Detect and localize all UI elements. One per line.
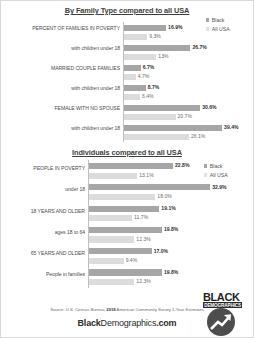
- bar-value-black: 19.1%: [161, 205, 175, 212]
- chart-group: People in families19.8%12.3%: [1, 266, 254, 287]
- bar-value-all-usa: 13.1%: [139, 172, 153, 179]
- bar-value-all-usa: 6.4%: [142, 93, 154, 100]
- bar-row: 26.7%: [124, 44, 254, 52]
- bar-row: 12.3%: [89, 278, 254, 286]
- bar-value-black: 6.7%: [143, 64, 155, 71]
- bar-all-usa: [89, 194, 155, 200]
- bar-black: [124, 65, 141, 71]
- bar-value-all-usa: 11.7%: [134, 214, 148, 221]
- bar-all-usa: [89, 173, 137, 179]
- bar-all-usa: [89, 215, 132, 221]
- bar-value-black: 30.6%: [202, 104, 216, 111]
- brand-part-black: Black: [78, 318, 101, 328]
- legend-label-all-usa: All USA: [210, 172, 228, 178]
- bar-value-black: 16.9%: [168, 24, 182, 31]
- bar-row: 13.1%: [89, 172, 254, 180]
- bar-value-black: 26.7%: [192, 44, 206, 51]
- bar-all-usa: [124, 74, 136, 80]
- bar-row: 20.7%: [124, 113, 254, 121]
- legend-swatch-black-icon: [204, 164, 207, 167]
- bar-all-usa: [124, 134, 189, 140]
- chart-2-legend: Black All USA: [204, 163, 228, 181]
- category-label: PERCENT OF FAMILIES IN POVERTY: [1, 26, 120, 32]
- chart-group: under 1832.9%18.0%: [1, 181, 254, 202]
- bar-value-all-usa: 4.7%: [138, 73, 150, 80]
- bar-row: 19.1%: [89, 205, 254, 213]
- category-label: MARRIED COUPLE FAMILIES: [1, 66, 120, 72]
- bar-row: 9.3%: [124, 33, 254, 41]
- bar-all-usa: [124, 54, 156, 60]
- category-label: PEOPLE IN POVERTY: [1, 166, 85, 172]
- bar-all-usa: [124, 94, 140, 100]
- bar-black: [124, 45, 190, 51]
- bar-value-black: 19.8%: [164, 269, 178, 276]
- bar-value-all-usa: 20.7%: [178, 113, 192, 120]
- bar-value-all-usa: 13%: [158, 53, 168, 60]
- legend-label-black: Black: [210, 163, 223, 169]
- logo-arrow-icon: [207, 308, 235, 336]
- bar-black: [124, 105, 200, 111]
- bar-value-all-usa: 26.1%: [191, 133, 205, 140]
- infographic-sheet: By Family Type compared to all USA PERCE…: [0, 0, 254, 338]
- chart-group: MARRIED COUPLE FAMILIES6.7%4.7%: [1, 62, 254, 82]
- bar-all-usa: [89, 258, 124, 264]
- chart-group: with children under 188.7%6.4%: [1, 82, 254, 102]
- chart-1-groups: PERCENT OF FAMILIES IN POVERTY16.9%9.3%w…: [1, 22, 254, 142]
- bar-black: [89, 269, 162, 275]
- legend-item-all-usa: All USA: [204, 172, 228, 178]
- chart-1-title: By Family Type compared to all USA: [1, 6, 253, 15]
- bar-row: 4.7%: [124, 73, 254, 81]
- category-label: 65 YEARS AND OLDER: [1, 251, 85, 257]
- bar-row: 6.7%: [124, 64, 254, 72]
- bar-black: [89, 227, 162, 233]
- bar-row: 19.8%: [89, 226, 254, 234]
- chart-group: with children under 1826.7%13%: [1, 42, 254, 62]
- category-label: FEMALE WITH NO SPOUSE: [1, 106, 120, 112]
- bar-value-black: 32.9%: [212, 184, 226, 191]
- bar-row: 32.9%: [89, 183, 254, 191]
- bar-value-all-usa: 9.4%: [126, 257, 138, 264]
- bar-row: 30.6%: [124, 104, 254, 112]
- bar-black: [89, 163, 173, 169]
- bar-value-black: 8.7%: [148, 84, 160, 91]
- bar-row: 16.9%: [124, 24, 254, 32]
- bar-row: 22.8%: [89, 162, 254, 170]
- legend-item-all-usa: All USA: [206, 26, 230, 32]
- chart-group: with children under 1839.4%26.1%: [1, 122, 254, 142]
- bar-value-all-usa: 9.3%: [149, 33, 161, 40]
- category-label: under 18: [1, 187, 85, 193]
- bar-all-usa: [124, 34, 147, 40]
- chart-2-title: Individuals compared to all USA: [1, 148, 253, 157]
- bar-black: [89, 248, 152, 254]
- bar-row: 12.3%: [89, 235, 254, 243]
- bar-row: 9.4%: [89, 257, 254, 265]
- legend-swatch-black-icon: [206, 18, 209, 21]
- bar-all-usa: [124, 114, 176, 120]
- chart-group: ages 18 to 6419.8%12.3%: [1, 224, 254, 245]
- bar-row: 8.7%: [124, 84, 254, 92]
- bar-black: [124, 85, 146, 91]
- bar-row: 6.4%: [124, 93, 254, 101]
- chart-1-plot: PERCENT OF FAMILIES IN POVERTY16.9%9.3%w…: [1, 22, 254, 142]
- bar-all-usa: [89, 279, 134, 285]
- chart-1-legend: Black All USA: [206, 17, 230, 35]
- bar-row: 11.7%: [89, 214, 254, 222]
- category-label: with children under 18: [1, 126, 120, 132]
- chart-group: 65 YEARS AND OLDER17.0%9.4%: [1, 245, 254, 266]
- source-year: 2018: [106, 307, 115, 312]
- bar-row: 17.0%: [89, 247, 254, 255]
- legend-item-black: Black: [206, 17, 230, 23]
- bar-row: 18.0%: [89, 193, 254, 201]
- legend-item-black: Black: [204, 163, 228, 169]
- category-label: 18 YEARS AND OLDER: [1, 209, 85, 215]
- bar-value-black: 19.8%: [164, 226, 178, 233]
- chart-family-type: PERCENT OF FAMILIES IN POVERTY16.9%9.3%w…: [1, 22, 254, 142]
- bar-black: [89, 206, 159, 212]
- bar-all-usa: [89, 236, 134, 242]
- legend-label-all-usa: All USA: [212, 26, 230, 32]
- category-label: ages 18 to 64: [1, 230, 85, 236]
- bar-value-all-usa: 12.3%: [136, 236, 150, 243]
- bar-black: [124, 25, 166, 31]
- bar-value-black: 17.0%: [154, 248, 168, 255]
- bar-row: 19.8%: [89, 268, 254, 276]
